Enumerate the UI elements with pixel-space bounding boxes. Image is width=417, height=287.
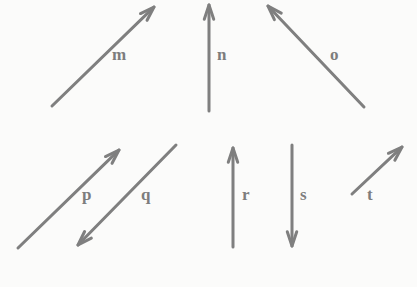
vector-r-label: r [242, 186, 250, 203]
vector-diagram: mnopqrst [0, 0, 417, 287]
vector-o-shaft [269, 7, 364, 107]
vector-n [204, 5, 213, 111]
vector-m-label: m [112, 46, 126, 63]
vector-q [78, 145, 176, 245]
vector-q-label: q [141, 186, 150, 203]
vector-m-shaft [52, 8, 153, 106]
vector-o [268, 6, 364, 107]
vector-p-shaft [18, 151, 118, 248]
vector-t-shaft [352, 148, 401, 194]
vector-p-label: p [82, 186, 91, 203]
vector-s-label: s [300, 186, 307, 203]
vector-t [352, 147, 402, 194]
vector-q-shaft [79, 145, 176, 244]
vector-s [287, 145, 296, 246]
vector-o-label: o [330, 46, 339, 63]
vector-canvas [0, 0, 417, 287]
vector-m [52, 7, 154, 106]
vector-p [18, 150, 119, 248]
vector-r [228, 148, 237, 247]
vector-n-label: n [217, 46, 226, 63]
vector-t-label: t [367, 186, 373, 203]
